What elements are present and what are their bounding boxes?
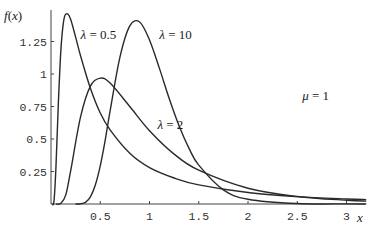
- x-tick-label: 2.5: [287, 210, 308, 223]
- x-tick-label: 2: [245, 210, 252, 223]
- y-tick-label: 0.5: [26, 133, 47, 146]
- y-ticks: 0.250.50.7511.25: [19, 36, 54, 179]
- curve-label: λ = 0.5: [80, 27, 117, 42]
- series-curve: [76, 21, 367, 204]
- annotations: μ = 1λ = 0.5λ = 10λ = 2: [80, 27, 329, 132]
- y-tick-label: 0.75: [19, 101, 47, 114]
- y-tick-label: 1: [40, 68, 47, 81]
- x-tick-label: 0.5: [90, 210, 111, 223]
- curve-label: λ = 10: [158, 27, 191, 42]
- x-tick-label: 3: [343, 210, 350, 223]
- y-tick-label: 1.25: [19, 36, 47, 49]
- y-tick-label: 0.25: [19, 166, 47, 179]
- x-axis-label: x: [356, 210, 363, 225]
- curve-label: μ = 1: [301, 88, 329, 103]
- inverse-gaussian-chart: 0.511.522.53 0.250.50.7511.25 μ = 1λ = 0…: [0, 0, 386, 233]
- curves: [52, 14, 366, 205]
- curve-label: λ = 2: [156, 117, 183, 132]
- y-axis-label: f(x): [4, 8, 22, 23]
- x-tick-label: 1.5: [188, 210, 209, 223]
- x-tick-label: 1: [146, 210, 153, 223]
